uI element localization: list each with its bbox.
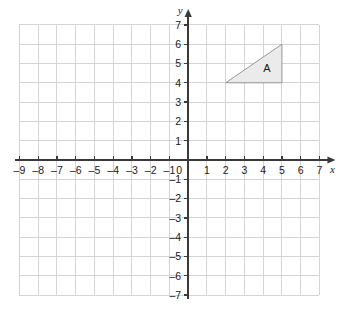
x-tick-label: –6	[70, 164, 82, 176]
y-tick-label: 4	[175, 77, 181, 89]
y-tick-label: 6	[175, 38, 181, 50]
y-axis-name: y	[177, 4, 183, 16]
y-tick-label: 2	[175, 115, 181, 127]
y-tick-label: 7	[175, 19, 181, 31]
x-tick-label: –8	[32, 164, 44, 176]
y-tick-label: 3	[175, 96, 181, 108]
y-tick-label: –1	[170, 173, 182, 185]
y-tick-label: 5	[175, 57, 181, 69]
x-tick-label: –5	[89, 164, 101, 176]
y-tick-label: –4	[170, 231, 182, 243]
x-tick-label: –7	[51, 164, 63, 176]
y-tick-label: –7	[170, 289, 182, 301]
x-tick-label: 4	[260, 164, 266, 176]
x-axis-name: x	[329, 163, 335, 175]
y-tick-label: 1	[175, 135, 181, 147]
x-tick-label: –3	[126, 164, 138, 176]
x-tick-label: 3	[242, 164, 248, 176]
x-tick-label: –4	[107, 164, 119, 176]
coordinate-plane-svg: –9–8–7–6–5–4–3–2–1012345677654321–1–2–3–…	[0, 0, 346, 309]
y-tick-label: –5	[170, 250, 182, 262]
x-tick-label: 1	[204, 164, 210, 176]
y-tick-label: –3	[170, 212, 182, 224]
x-tick-label: –9	[14, 164, 26, 176]
x-tick-label: 2	[223, 164, 229, 176]
y-tick-label: –2	[170, 192, 182, 204]
coordinate-plane-figure: –9–8–7–6–5–4–3–2–1012345677654321–1–2–3–…	[0, 0, 346, 309]
x-tick-label: 7	[317, 164, 323, 176]
shape-label-a: A	[263, 62, 271, 74]
figure-background	[0, 0, 346, 309]
x-tick-label: 5	[279, 164, 285, 176]
x-tick-label: 6	[298, 164, 304, 176]
x-tick-label: –2	[145, 164, 157, 176]
y-tick-label: –6	[170, 270, 182, 282]
